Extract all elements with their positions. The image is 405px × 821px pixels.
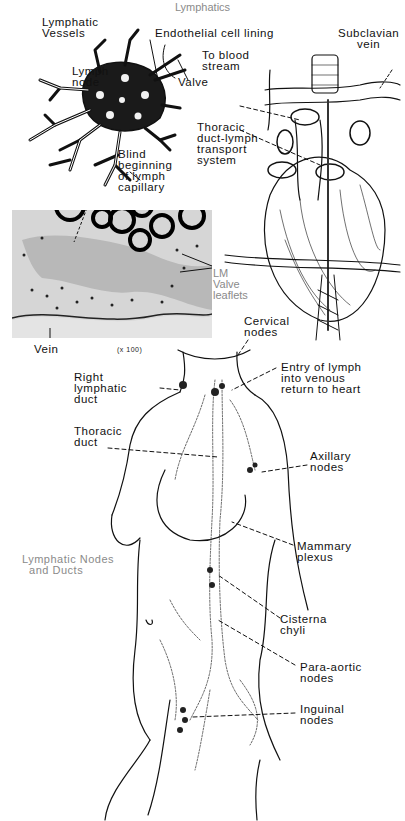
- label-vein: Vein: [34, 344, 58, 355]
- heart-drawing: [225, 55, 400, 340]
- label-cervical-nodes: Cervical nodes: [244, 316, 290, 338]
- label-axillary-nodes: Axillary nodes: [310, 451, 351, 473]
- lymph-network-drawing: [160, 380, 258, 770]
- label-to-blood-stream: To blood stream: [202, 50, 249, 72]
- label-subclavian-vein: Subclavian vein: [338, 28, 399, 50]
- label-endothelial-cell-lining: Endothelial cell lining: [155, 28, 274, 39]
- label-lm-valve-leaflets: LM Valve leaflets: [213, 268, 248, 301]
- caption-lymphatic-nodes-and-ducts: Lymphatic Nodes and Ducts: [22, 554, 114, 576]
- label-valve: Valve: [178, 77, 208, 88]
- label-right-lymphatic-duct: Right lymphatic duct: [74, 372, 127, 405]
- label-mammary-plexus: Mammary plexus: [297, 541, 352, 563]
- label-blind-beginning: Blind beginning of lymph capillary: [118, 149, 172, 193]
- lymphatics-figure: Lymphatics: [0, 0, 405, 821]
- label-magnification: (x 100): [117, 346, 142, 353]
- label-entry-of-lymph: Entry of lymph into venous return to hea…: [281, 362, 362, 395]
- female-torso-drawing: [105, 350, 308, 820]
- label-lymphatic-vessels: Lymphatic Vessels: [42, 17, 99, 39]
- label-thoracic-duct: Thoracic duct: [74, 426, 122, 448]
- label-cisterna-chyli: Cisterna chyli: [280, 614, 327, 636]
- label-para-aortic-nodes: Para-aortic nodes: [300, 662, 362, 684]
- lymph-node-clusters: [177, 381, 258, 733]
- label-lymph-node: Lymph node: [72, 66, 109, 88]
- label-inguinal-nodes: Inguinal nodes: [300, 704, 344, 726]
- label-thoracic-duct-transport: Thoracic duct-lymph transport system: [197, 122, 258, 166]
